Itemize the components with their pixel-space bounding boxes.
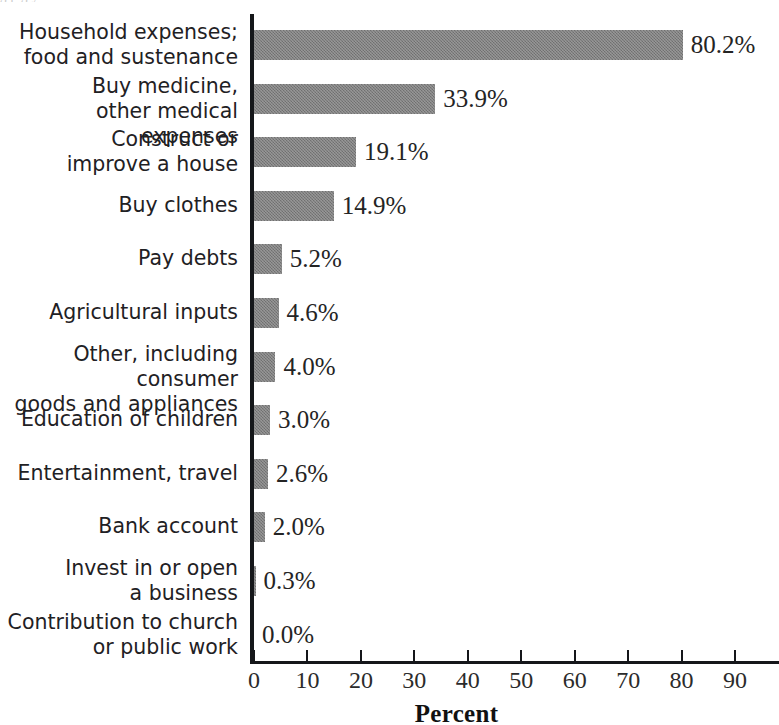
bar-row: Agricultural inputs4.6%: [0, 298, 779, 328]
bar-row: Pay debts5.2%: [0, 244, 779, 274]
category-label: Buy clothes: [0, 193, 250, 218]
bar-value-label: 4.6%: [287, 298, 339, 328]
bar-row: Household expenses; food and sustenance8…: [0, 30, 779, 60]
bar-row: Buy medicine, other medical expenses33.9…: [0, 84, 779, 114]
bar: [254, 405, 270, 435]
bar-value-label: 3.0%: [278, 405, 330, 435]
bar-row: Education of children3.0%: [0, 405, 779, 435]
category-label: Education of children: [0, 407, 250, 432]
bar-value-label: 5.2%: [290, 244, 342, 274]
x-axis-tick-label: 80: [670, 667, 694, 694]
bar-row: Buy clothes14.9%: [0, 191, 779, 221]
bar-value-label: 0.0%: [262, 620, 314, 650]
bar-row: Contribution to church or public work0.0…: [0, 620, 779, 650]
category-label: Construct or improve a house: [0, 127, 250, 177]
x-axis-title: Percent: [0, 700, 779, 725]
x-axis-tick: [734, 650, 736, 661]
x-axis-tick-label: 0: [248, 667, 260, 694]
x-axis-tick-label: 90: [723, 667, 747, 694]
bar-value-label: 19.1%: [364, 137, 429, 167]
bar-value-label: 14.9%: [342, 191, 407, 221]
bar: [254, 84, 435, 114]
bar: [254, 566, 256, 596]
bar-row: Construct or improve a house19.1%: [0, 137, 779, 167]
x-axis-tick-label: 70: [616, 667, 640, 694]
x-axis-tick: [360, 650, 362, 661]
bar: [254, 244, 282, 274]
x-axis-tick-label: 50: [509, 667, 533, 694]
x-axis-tick: [520, 650, 522, 661]
bar-chart: g p g y 0102030405060708090 Household ex…: [0, 0, 779, 725]
x-axis-tick-label: 10: [295, 667, 319, 694]
x-axis-tick: [306, 650, 308, 661]
category-label: Entertainment, travel: [0, 461, 250, 486]
bar-value-label: 0.3%: [264, 566, 316, 596]
bar: [254, 459, 268, 489]
bar-row: Entertainment, travel2.6%: [0, 459, 779, 489]
x-axis-tick: [467, 650, 469, 661]
category-label: Pay debts: [0, 246, 250, 271]
x-axis-tick: [253, 650, 255, 661]
x-axis-tick-label: 40: [456, 667, 480, 694]
category-label: Bank account: [0, 514, 250, 539]
bar: [254, 30, 683, 60]
bar: [254, 298, 279, 328]
bar-value-label: 80.2%: [691, 30, 756, 60]
x-axis-tick: [681, 650, 683, 661]
category-label: Household expenses; food and sustenance: [0, 20, 250, 70]
cropped-caption-remnant: g p g y: [0, 0, 779, 2]
bar-value-label: 4.0%: [283, 352, 335, 382]
bar-row: Invest in or open a business0.3%: [0, 566, 779, 596]
x-axis-line: [250, 661, 779, 664]
bar-value-label: 33.9%: [443, 84, 508, 114]
x-axis-tick: [413, 650, 415, 661]
bar-value-label: 2.6%: [276, 459, 328, 489]
x-axis-title-text: Percent: [281, 700, 499, 725]
bar: [254, 352, 275, 382]
bar: [254, 191, 334, 221]
bar-value-label: 2.0%: [273, 512, 325, 542]
bar-row: Bank account2.0%: [0, 512, 779, 542]
x-axis-tick: [574, 650, 576, 661]
bar-row: Other, including consumer goods and appl…: [0, 352, 779, 382]
bar: [254, 137, 356, 167]
category-label: Contribution to church or public work: [0, 610, 250, 660]
x-axis-tick-label: 30: [402, 667, 426, 694]
bar: [254, 512, 265, 542]
category-label: Agricultural inputs: [0, 300, 250, 325]
x-axis-tick-label: 20: [349, 667, 373, 694]
x-axis-tick: [627, 650, 629, 661]
category-label: Invest in or open a business: [0, 556, 250, 606]
x-axis-tick-label: 60: [563, 667, 587, 694]
